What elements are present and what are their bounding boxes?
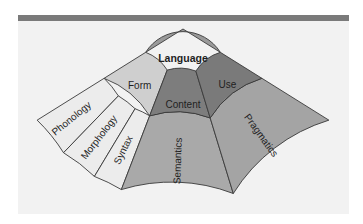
label-form: Form xyxy=(128,80,151,91)
label-language: Language xyxy=(158,52,208,64)
label-semantics: Semantics xyxy=(171,137,184,184)
segment-language xyxy=(146,29,221,52)
language-fan-diagram: LanguageFormContentUsePhonologyMorpholog… xyxy=(0,0,363,224)
label-content: Content xyxy=(165,99,200,110)
label-use: Use xyxy=(218,79,236,90)
